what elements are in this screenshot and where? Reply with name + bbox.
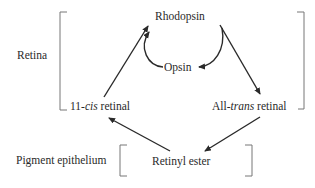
cis-prefix: 11- xyxy=(70,100,85,112)
pigment-bracket-right xyxy=(245,145,252,176)
cis-suffix: retinal xyxy=(98,100,130,112)
node-all-trans-retinal: All-trans retinal xyxy=(212,101,286,113)
retina-bracket-left xyxy=(60,12,67,98)
cis-italic: cis xyxy=(85,100,98,112)
node-rhodopsin: Rhodopsin xyxy=(155,11,205,23)
retina-bracket-right xyxy=(297,12,304,109)
arrow-opsin-to-rhodopsin xyxy=(144,32,163,67)
region-label-pigment-epithelium: Pigment epithelium xyxy=(16,155,106,167)
arrow-cis-to-rhodopsin xyxy=(104,26,148,97)
node-opsin: Opsin xyxy=(164,62,191,74)
node-11-cis-retinal: 11-cis retinal xyxy=(70,101,130,113)
trans-italic: trans xyxy=(231,100,255,112)
trans-suffix: retinal xyxy=(254,100,286,112)
arrow-ester-to-cis xyxy=(109,118,170,151)
pigment-bracket-left xyxy=(120,145,127,176)
arrow-rhodopsin-to-trans xyxy=(220,25,260,94)
cis-bracket xyxy=(60,98,67,110)
node-retinyl-ester: Retinyl ester xyxy=(152,156,210,168)
arrow-rhodopsin-to-opsin xyxy=(199,28,223,67)
trans-prefix: All- xyxy=(212,100,231,112)
region-label-retina: Retina xyxy=(17,50,47,62)
